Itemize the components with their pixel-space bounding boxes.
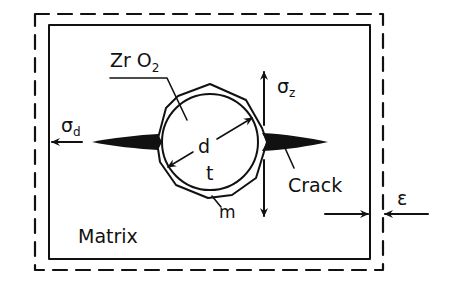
sigma-d-label: σd xyxy=(61,114,81,139)
left-crack xyxy=(92,134,162,150)
zro2-label: Zr O2 xyxy=(110,49,159,75)
crack-label: Crack xyxy=(288,174,342,196)
zro2-transformation-toughening-diagram: Zr O2 σd σz d t m Crack Matrix ε xyxy=(0,0,456,289)
diameter-arrow-upper xyxy=(217,118,252,139)
diameter-label: d xyxy=(198,135,210,157)
diameter-arrow-lower xyxy=(168,152,193,167)
strain-label: ε xyxy=(397,187,407,209)
tetragonal-label: t xyxy=(206,162,213,184)
monoclinic-label: m xyxy=(219,202,236,222)
matrix-label: Matrix xyxy=(78,225,138,247)
crack-leader-line xyxy=(285,148,294,168)
right-crack xyxy=(262,133,328,151)
sigma-z-label: σz xyxy=(277,75,295,100)
